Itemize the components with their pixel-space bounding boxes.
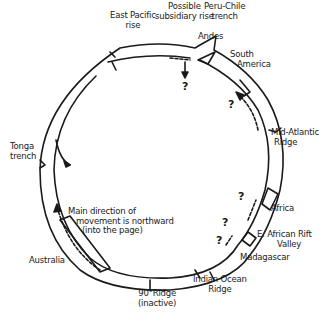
tectonic-diagram: ? ? ? ? ?	[0, 0, 328, 321]
label-line: trench	[10, 152, 36, 162]
label-africa: Africa	[271, 204, 294, 214]
label-line: America	[230, 60, 271, 70]
tonga-subduction-arrow	[56, 140, 70, 165]
label-east-african-rift: E. African Rift Valley	[257, 230, 312, 249]
label-mid-atlantic-ridge: Mid-Atlantic Ridge	[271, 128, 319, 147]
label-madagascar: Madagascar	[240, 253, 290, 263]
question-mark-1: ?	[182, 80, 188, 93]
madagascar-block	[242, 232, 256, 246]
movement-arrow-south-america	[240, 96, 258, 130]
andes-wedge	[198, 52, 215, 64]
question-mark-3: ?	[238, 190, 244, 203]
label-east-pacific-rise: East Pacific rise	[110, 11, 156, 30]
question-mark-4: ?	[222, 216, 228, 229]
label-indian-ocean-ridge: Indian Ocean Ridge	[193, 275, 247, 294]
question-mark-5: ?	[216, 234, 222, 247]
label-line: Valley	[257, 240, 312, 250]
label-peru-chile-trench: Peru-Chile trench	[204, 2, 245, 21]
label-australia: Australia	[29, 256, 65, 266]
question-mark-2: ?	[228, 98, 234, 111]
label-andes: Andes	[198, 32, 223, 42]
label-line: Ridge	[271, 138, 319, 148]
label-line: rise	[110, 21, 156, 31]
label-line: Ridge	[193, 285, 247, 295]
movement-arrow-madagascar	[226, 236, 232, 245]
inner-earth-outline	[54, 56, 269, 278]
label-tonga-trench: Tonga trench	[10, 142, 36, 161]
label-line: (into the page)	[68, 226, 174, 236]
label-line: trench	[204, 12, 245, 22]
label-line: (inactive)	[138, 299, 176, 309]
label-movement-note: Main direction of movement is northward …	[68, 207, 174, 236]
label-south-america: South America	[230, 50, 271, 69]
label-ninety-ridge: 90°Ridge (inactive)	[138, 289, 176, 308]
